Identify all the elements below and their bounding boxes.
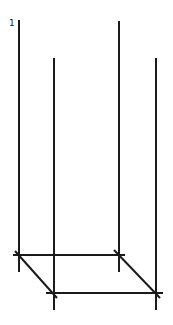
left-side-line	[15, 251, 57, 298]
right-side-line	[114, 250, 160, 298]
wireframe-box-diagram	[0, 0, 173, 325]
